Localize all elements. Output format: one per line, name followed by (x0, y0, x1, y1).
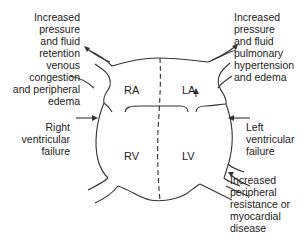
chamber-la: LA (182, 84, 195, 96)
chamber-ra: RA (124, 84, 139, 96)
lv-cause-label: Increased peripheral resistance or myoca… (230, 174, 290, 234)
right-atrial-effect-label: Increased pressure and fluid retention v… (13, 11, 80, 107)
right-ventricular-failure-label: Right ventricular failure (22, 121, 70, 157)
chamber-rv: RV (124, 150, 139, 162)
left-atrial-effect-label: Increased pressure and fluid pulmonary h… (234, 11, 294, 83)
left-ventricular-failure-label: Left ventricular failure (246, 121, 294, 157)
chamber-lv: LV (182, 150, 195, 162)
